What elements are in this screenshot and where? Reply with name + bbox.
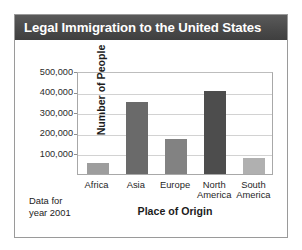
bar-europe — [165, 139, 187, 174]
y-tick-label: 400,000 — [27, 87, 73, 97]
x-axis-title: Place of Origin — [77, 205, 273, 217]
y-tick-label: 300,000 — [27, 108, 73, 118]
gridline — [78, 94, 272, 95]
gridline — [78, 135, 272, 136]
chart-title: Legal Immigration to the United States — [24, 15, 261, 40]
y-tick-mark — [74, 113, 77, 114]
y-axis-title: Number of People — [95, 38, 107, 142]
chart-card: Legal Immigration to the United States N… — [14, 14, 288, 238]
bar-south-america — [243, 158, 265, 174]
bar-africa — [87, 163, 109, 174]
footnote-line-1: Data for — [29, 195, 71, 207]
x-tick-label: SouthAmerica — [219, 180, 287, 201]
x-tick-label-line: America — [219, 190, 287, 200]
y-tick-mark — [74, 134, 77, 135]
footnote-line-2: year 2001 — [29, 207, 71, 219]
y-tick-label: 100,000 — [27, 149, 73, 159]
y-tick-label: 200,000 — [27, 128, 73, 138]
y-tick-mark — [74, 93, 77, 94]
footnote: Data for year 2001 — [29, 195, 71, 218]
gridline — [78, 114, 272, 115]
chart-title-bar: Legal Immigration to the United States — [15, 15, 287, 40]
y-tick-mark — [74, 72, 77, 73]
y-tick-label: 500,000 — [27, 67, 73, 77]
bar-asia — [126, 102, 148, 174]
y-tick-mark — [74, 154, 77, 155]
plot-area: Number of People — [77, 72, 273, 175]
bar-north-america — [204, 91, 226, 174]
